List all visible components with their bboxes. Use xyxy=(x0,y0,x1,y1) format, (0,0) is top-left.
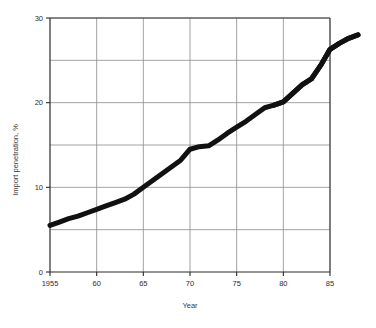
x-tick-label: 65 xyxy=(139,279,147,288)
y-tick-label: 0 xyxy=(39,268,43,277)
y-tick-label: 20 xyxy=(35,98,43,107)
x-tick-label: 1955 xyxy=(42,279,59,288)
x-tick-label: 70 xyxy=(186,279,194,288)
x-tick-label: 80 xyxy=(279,279,287,288)
y-axis-title: Import penetration, % xyxy=(11,124,20,196)
y-tick-label: 30 xyxy=(35,14,43,23)
import-penetration-line-chart: 0102030 1955606570758085 Import penetrat… xyxy=(0,0,376,328)
x-tick-label: 60 xyxy=(92,279,100,288)
chart-container: 0102030 1955606570758085 Import penetrat… xyxy=(0,0,376,328)
x-tick-label: 75 xyxy=(232,279,240,288)
y-tick-label: 10 xyxy=(35,183,43,192)
x-tick-label: 85 xyxy=(326,279,334,288)
x-axis-title: Year xyxy=(182,301,198,310)
